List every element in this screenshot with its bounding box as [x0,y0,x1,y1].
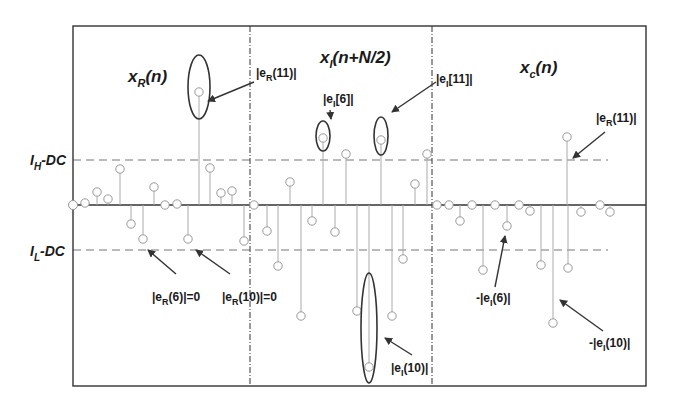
stem-marker [331,228,339,236]
stem-marker [308,217,316,225]
stem-marker [342,150,350,158]
stem-marker [116,165,124,173]
annotation-text: |eR(11)| [596,111,637,128]
panel-title-combined: xc(n) [519,58,558,80]
annotation-arrow-icon [385,338,412,355]
label-neg-eI10: -|eI(10)| [560,300,630,353]
annotation-text: |eI(10)| [391,361,428,378]
annotation-text: |eI[11]| [436,72,473,89]
stem-marker [445,201,453,209]
stem-marker [606,208,614,216]
label-eI10-mid: |eI(10)| [385,338,428,378]
panel-title-imag-part-shifted: xI(n+N/2) [319,48,391,70]
stem-marker [195,88,203,96]
stem-marker [150,183,158,191]
stem-marker [515,201,523,209]
label-eR6: |eR(6)|=0 [148,250,201,307]
threshold-low-label: IL-DC [30,243,66,263]
annotation-arrow-icon [573,132,605,158]
annotation-text: |eI[6]| [323,92,354,109]
stem-marker [297,312,305,320]
stem-marker [353,307,361,315]
stem-marker [377,136,385,144]
stem-marker [596,201,604,209]
panel-real-part-stems [69,88,258,245]
stem-marker [69,201,78,210]
stem-marker [250,201,258,209]
stem-marker [503,222,511,230]
annotation-text: |eR(6)|=0 [152,290,201,307]
annotation-arrow-icon [392,82,436,112]
stem-marker [93,188,101,196]
stem-marker [184,235,192,243]
label-eI6: |eI[6]| [323,92,354,119]
stem-marker [240,237,248,245]
stem-marker [217,189,225,197]
panel-imag-part-shifted-stems [263,134,441,371]
stem-marker [479,266,487,274]
stem-marker [468,201,476,209]
stem-marker [563,133,571,141]
panel-title-real-part: xR(n) [127,67,167,89]
label-eR10: |eR(10)|=0 [196,250,277,307]
stem-marker [456,217,464,225]
titles-layer: xR(n)xI(n+N/2)xc(n) [127,48,558,89]
stem-marker [411,180,419,188]
stem-marker [399,255,407,263]
annotation-text: -|eI(6)| [476,291,511,308]
stem-marker [161,201,169,209]
stems-layer [69,88,615,371]
stem-marker [173,200,181,208]
annotation-arrow-icon [560,300,603,331]
stem-marker [206,164,214,172]
stem-marker [319,134,327,142]
stem-marker [127,220,135,228]
stem-marker [549,319,557,327]
stem-marker [577,208,585,216]
ellipses-layer [188,55,388,383]
annotation-arrow-icon [495,236,505,287]
stem-marker [81,199,89,207]
stem-marker [104,195,112,203]
stem-marker [228,187,236,195]
annotation-arrow-icon [148,250,176,274]
stem-marker [139,235,147,243]
figure-canvas: IH-DCIL-DC |eR(11)||eI[6]||eI[11]||eR(11… [0,0,678,411]
stem-marker [491,201,499,209]
threshold-high-label: IH-DC [30,152,67,172]
label-eR11-right: |eR(11)| [573,111,637,158]
label-eR11-top: |eR(11)| [208,66,297,101]
stem-marker [423,150,431,158]
stem-marker [388,312,396,320]
stem-marker [263,227,271,235]
stem-marker [526,207,534,215]
panel-combined-stems [445,133,614,327]
annotation-text: |eR(11)| [256,66,297,83]
stem-marker [274,262,282,270]
stem-marker [564,264,572,272]
stem-marker [286,178,294,186]
stem-marker [537,261,545,269]
stem-marker [365,363,373,371]
annotation-arrow-icon [208,82,254,101]
stem-marker [433,201,441,209]
annotation-arrow-icon [330,110,331,119]
annotation-arrow-icon [196,250,230,274]
annotation-text: -|eI(10)| [589,336,630,353]
